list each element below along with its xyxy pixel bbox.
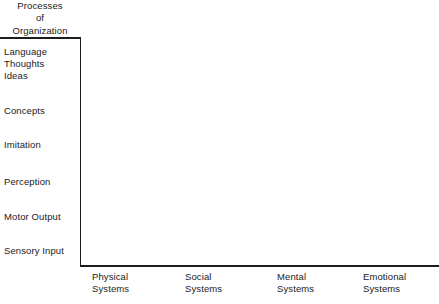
y-axis-label-line: Perception	[4, 176, 78, 188]
x-axis-label-line: Systems	[277, 283, 314, 295]
x-axis-label-line: Social	[185, 271, 222, 283]
y-axis-label-line: Ideas	[4, 70, 78, 82]
y-axis-label-line: Language	[4, 46, 78, 58]
y-axis-label-perception: Perception	[4, 176, 78, 188]
y-axis-label-line: Thoughts	[4, 58, 78, 70]
y-axis-label-language-thoughts-ideas: Language Thoughts Ideas	[4, 46, 78, 83]
y-axis-title: Processes of Organization	[0, 0, 80, 37]
y-axis-title-underline	[0, 37, 81, 39]
x-axis-label-line: Physical	[92, 271, 129, 283]
x-axis-label-social-systems: Social Systems	[185, 271, 222, 296]
x-axis-label-mental-systems: Mental Systems	[277, 271, 314, 296]
y-axis-title-line-2: of	[0, 12, 80, 24]
y-axis-label-motor-output: Motor Output	[4, 211, 78, 223]
x-axis-label-line: Systems	[363, 283, 406, 295]
y-axis-label-sensory-input: Sensory Input	[4, 245, 78, 257]
y-axis-label-line: Concepts	[4, 105, 78, 117]
organization-processes-matrix-figure: Processes of Organization Language Thoug…	[0, 0, 439, 304]
y-axis-label-line: Sensory Input	[4, 245, 78, 257]
y-axis-title-line-1: Processes	[0, 0, 80, 12]
y-axis-label-line: Imitation	[4, 139, 78, 151]
y-axis-label-concepts: Concepts	[4, 105, 78, 117]
x-axis-label-line: Emotional	[363, 271, 406, 283]
x-axis-label-line: Mental	[277, 271, 314, 283]
x-axis-label-line: Systems	[92, 283, 129, 295]
x-axis-line	[80, 265, 439, 267]
x-axis-label-emotional-systems: Emotional Systems	[363, 271, 406, 296]
y-axis-label-imitation: Imitation	[4, 139, 78, 151]
x-axis-label-line: Systems	[185, 283, 222, 295]
plot-area	[81, 38, 439, 265]
x-axis-label-physical-systems: Physical Systems	[92, 271, 129, 296]
y-axis-label-line: Motor Output	[4, 211, 78, 223]
y-axis-title-line-3: Organization	[0, 25, 80, 37]
